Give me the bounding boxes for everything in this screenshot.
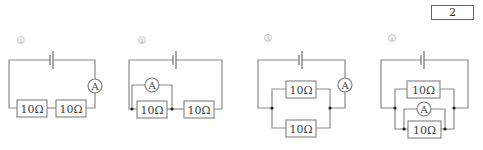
wire <box>86 93 95 108</box>
svg-text:10Ω: 10Ω <box>412 84 435 97</box>
ammeter-icon: A <box>417 102 431 116</box>
svg-text:A: A <box>419 104 428 115</box>
circuit-number-1: ① <box>18 37 25 44</box>
svg-text:10Ω: 10Ω <box>20 103 43 116</box>
battery-icon <box>299 51 302 69</box>
junction-dot <box>443 127 446 130</box>
junction-dot <box>130 107 133 110</box>
wire <box>441 108 454 129</box>
wire <box>395 89 407 108</box>
svg-text:④: ④ <box>389 35 394 42</box>
junction-dot <box>170 107 173 110</box>
resistor-icon: 10Ω <box>17 100 47 117</box>
svg-text:10Ω: 10Ω <box>289 123 312 136</box>
svg-text:10Ω: 10Ω <box>187 104 210 117</box>
battery-icon <box>173 51 176 69</box>
circuit-number-4: ④ <box>389 35 396 42</box>
wire <box>272 108 286 128</box>
resistor-icon: 10Ω <box>137 101 167 118</box>
junction-dot <box>393 106 396 109</box>
circuit-2: ② A 10Ω 10Ω <box>129 37 222 119</box>
circuit-diagrams: ① A 10Ω 10Ω ② <box>0 0 483 150</box>
resistor-icon: 10Ω <box>408 121 441 138</box>
wire <box>302 60 345 78</box>
wire <box>395 108 408 129</box>
svg-text:10Ω: 10Ω <box>289 84 312 97</box>
circuit-number-2: ② <box>139 37 146 44</box>
wire <box>316 108 330 128</box>
circuit-number-3: ③ <box>265 35 272 42</box>
circuit-3: ③ A 10Ω 10Ω <box>258 35 352 138</box>
ammeter-icon: A <box>338 78 352 92</box>
resistor-icon: 10Ω <box>184 101 214 118</box>
svg-text:②: ② <box>139 37 144 44</box>
battery-icon <box>50 51 53 69</box>
svg-text:①: ① <box>18 37 23 44</box>
wire <box>440 89 454 108</box>
resistor-icon: 10Ω <box>56 100 86 117</box>
svg-text:10Ω: 10Ω <box>140 104 163 117</box>
circuit-4: ④ A 10Ω 10Ω <box>381 35 468 139</box>
svg-text:A: A <box>147 80 156 91</box>
wire <box>272 89 286 108</box>
resistor-icon: 10Ω <box>407 81 440 98</box>
junction-dot <box>402 127 405 130</box>
resistor-icon: 10Ω <box>286 81 316 98</box>
wire <box>53 60 95 79</box>
circuit-1: ① A 10Ω 10Ω <box>9 37 102 118</box>
svg-text:A: A <box>340 80 349 91</box>
junction-dot <box>328 106 331 109</box>
svg-text:10Ω: 10Ω <box>59 103 82 116</box>
battery-icon <box>421 51 424 69</box>
wire <box>330 92 345 108</box>
wire <box>316 89 330 108</box>
svg-text:③: ③ <box>265 35 270 42</box>
ammeter-icon: A <box>88 79 102 93</box>
ammeter-icon: A <box>145 78 159 92</box>
resistor-icon: 10Ω <box>286 120 316 137</box>
junction-dot <box>452 106 455 109</box>
junction-dot <box>270 106 273 109</box>
svg-text:10Ω: 10Ω <box>413 124 436 137</box>
svg-text:A: A <box>90 81 99 92</box>
